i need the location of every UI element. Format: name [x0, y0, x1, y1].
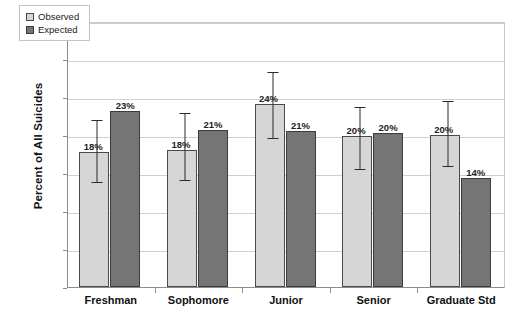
legend-label-expected: Expected [38, 24, 78, 35]
x-axis-tick-mark [417, 288, 418, 293]
gridline [68, 23, 504, 24]
error-bar-cap-bottom [355, 169, 366, 170]
error-bar-cap-top [267, 72, 278, 73]
bar-value-label-observed: 20% [434, 124, 453, 135]
gridline [68, 61, 504, 62]
error-bar-cap-bottom [179, 180, 190, 181]
bar-expected [110, 111, 140, 287]
bar-observed [79, 152, 109, 287]
plot-area: 18%23%18%21%24%21%20%20%20%14% [67, 22, 505, 288]
bar-expected [286, 131, 316, 287]
error-bar-cap-bottom [92, 182, 103, 183]
bar-expected [461, 178, 491, 287]
x-axis-tick-mark [155, 288, 156, 293]
x-axis-tick-label: Senior [356, 294, 390, 306]
legend-swatch-observed-icon [26, 13, 34, 21]
error-bar-cap-bottom [267, 138, 278, 139]
bar-expected [198, 130, 228, 287]
error-bar [360, 107, 361, 170]
error-bar [184, 113, 185, 181]
bar-value-label-expected: 20% [379, 122, 398, 133]
bar-observed [430, 135, 460, 287]
x-axis-tick-label: Freshman [85, 294, 138, 306]
bar-value-label-expected: 23% [116, 100, 135, 111]
bar-value-label-expected: 21% [291, 120, 310, 131]
error-bar-cap-top [92, 120, 103, 121]
bar-value-label-observed: 18% [84, 141, 103, 152]
x-axis-tick-mark [330, 288, 331, 293]
legend-label-observed: Observed [38, 11, 79, 22]
x-axis-tick-label: Sophomore [168, 294, 229, 306]
bar-observed [255, 104, 285, 287]
x-axis-tick-mark [242, 288, 243, 293]
error-bar [272, 72, 273, 140]
x-axis-tick-label: Graduate Std [427, 294, 496, 306]
bar-value-label-expected: 21% [203, 119, 222, 130]
legend-item-expected: Expected [26, 23, 79, 36]
legend-item-observed: Observed [26, 10, 79, 23]
y-axis-tick-mark [63, 288, 67, 289]
error-bar-cap-bottom [442, 166, 453, 167]
error-bar [97, 120, 98, 184]
bar-value-label-observed: 24% [259, 93, 278, 104]
error-bar-cap-top [442, 101, 453, 102]
error-bar-cap-top [179, 113, 190, 114]
x-axis-tick-label: Junior [269, 294, 303, 306]
bar-value-label-observed: 18% [171, 139, 190, 150]
error-bar [447, 101, 448, 168]
y-axis-title: Percent of All Suicides [32, 36, 44, 256]
bar-chart: Percent of All Suicides 0%5%10%15%20%25%… [0, 0, 523, 323]
bar-observed [342, 136, 372, 287]
chart-legend: Observed Expected [19, 5, 90, 41]
bar-observed [167, 150, 197, 287]
error-bar-cap-top [355, 107, 366, 108]
bar-value-label-observed: 20% [347, 125, 366, 136]
legend-swatch-expected-icon [26, 26, 34, 34]
bar-value-label-expected: 14% [466, 167, 485, 178]
bar-expected [373, 133, 403, 287]
